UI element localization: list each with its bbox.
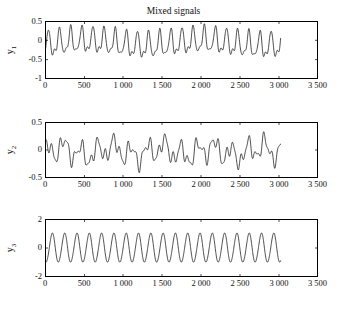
x-tick-label-3-6: 3 000 [259,279,299,288]
x-tick-label-3-5: 2 500 [220,279,260,288]
signal-curve-y3 [0,0,347,309]
x-tick-label-3-3: 1 500 [142,279,182,288]
x-tick-label-3-7: 3 500 [298,279,338,288]
signal-path-y3 [46,233,281,262]
x-tick-label-3-2: 1 000 [103,279,143,288]
figure-canvas: Mixed signals y1 0.5 0 -0.5 -1 [0,0,347,309]
x-tick-label-3-4: 2 000 [181,279,221,288]
x-tick-label-3-0: 0 [25,279,65,288]
x-tick-label-3-1: 500 [64,279,104,288]
